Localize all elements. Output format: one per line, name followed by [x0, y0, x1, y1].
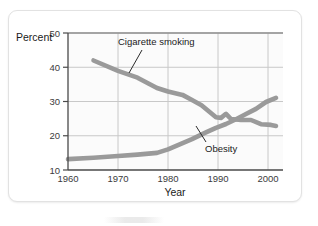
y-axis-title: Percent — [16, 31, 52, 43]
y-tick-label-30: 30 — [49, 96, 60, 107]
bottom-edge-artifact — [104, 217, 164, 223]
x-tick-label-2000: 2000 — [257, 173, 278, 184]
figure-root: 50 40 30 20 10 1960 1970 1980 1990 2000 … — [0, 0, 318, 226]
x-tick-label-1970: 1970 — [107, 173, 128, 184]
line-chart: 50 40 30 20 10 1960 1970 1980 1990 2000 … — [0, 0, 318, 226]
x-tick-label-1960: 1960 — [57, 173, 78, 184]
y-tick-marks — [63, 33, 68, 170]
x-tick-label-1980: 1980 — [157, 173, 178, 184]
series-label-cigarette-smoking: Cigarette smoking — [118, 36, 195, 47]
x-tick-label-1990: 1990 — [207, 173, 228, 184]
y-tick-label-20: 20 — [49, 130, 60, 141]
series-label-obesity: Obesity — [205, 143, 237, 154]
y-tick-label-40: 40 — [49, 62, 60, 73]
x-axis-title: Year — [164, 186, 186, 198]
